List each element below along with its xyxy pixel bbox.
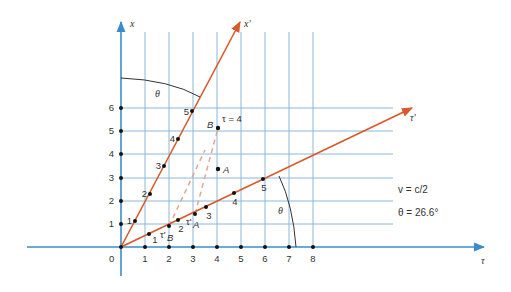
- svg-text:3: 3: [156, 160, 161, 171]
- x-axis-label: x: [129, 18, 135, 29]
- svg-text:6: 6: [262, 253, 267, 264]
- svg-text:2: 2: [166, 253, 171, 264]
- svg-text:2: 2: [178, 223, 183, 234]
- svg-text:4: 4: [232, 196, 237, 207]
- x-prime-axis: [121, 22, 240, 247]
- tau-prime-A-label: τ' A: [186, 216, 199, 230]
- svg-text:2: 2: [109, 195, 114, 206]
- svg-text:5: 5: [109, 125, 114, 136]
- svg-text:1: 1: [127, 215, 132, 226]
- svg-text:8: 8: [310, 253, 315, 264]
- event-A-label: A: [222, 164, 229, 175]
- angle-note: θ = 26.6°: [398, 207, 438, 218]
- svg-text:τ': τ': [160, 229, 166, 240]
- svg-text:A: A: [192, 219, 199, 230]
- svg-text:1: 1: [142, 253, 147, 264]
- tau-prime-A-dot: [193, 212, 197, 216]
- origin-label: 0: [109, 253, 114, 264]
- svg-text:5: 5: [184, 106, 189, 117]
- velocity-note: v = c/2: [398, 184, 428, 195]
- svg-text:4: 4: [214, 253, 219, 264]
- svg-text:4: 4: [109, 148, 114, 159]
- tau-prime-axis-label: τ': [410, 112, 417, 123]
- x-tick-labels: 1 2 3 4 5 6: [109, 102, 114, 229]
- grid-horizontal-lines: [121, 108, 393, 224]
- tau-prime-B-label: τ' B: [160, 229, 174, 243]
- svg-text:τ': τ': [186, 216, 192, 227]
- theta-label-upper: θ: [155, 88, 160, 99]
- tau-tick-labels: 1 2 3 4 5 6 7 8: [142, 253, 315, 264]
- spacetime-diagram: x x' τ' τ 0 1 2 3 4 5 6 7 8 1 2 3 4 5 6 …: [0, 0, 511, 292]
- theta-arc-upper: [121, 78, 200, 97]
- svg-text:3: 3: [190, 253, 195, 264]
- event-B-label: B: [207, 119, 214, 130]
- event-B-dot: [216, 126, 220, 130]
- svg-text:7: 7: [286, 253, 291, 264]
- svg-text:3: 3: [206, 210, 211, 221]
- event-B-annotation: τ = 4: [222, 113, 242, 124]
- svg-text:5: 5: [261, 182, 266, 193]
- svg-text:6: 6: [109, 102, 114, 113]
- x-prime-tick-labels: 1 2 3 4 5: [127, 106, 189, 226]
- svg-text:B: B: [167, 232, 174, 243]
- tau-axis-label: τ: [481, 255, 485, 266]
- x-prime-axis-label: x': [243, 18, 251, 29]
- theta-label-lower: θ: [278, 205, 283, 216]
- svg-text:5: 5: [238, 253, 243, 264]
- svg-text:1: 1: [152, 234, 157, 245]
- svg-text:3: 3: [109, 172, 114, 183]
- svg-text:4: 4: [170, 133, 175, 144]
- tau-prime-B-dot: [167, 224, 171, 228]
- svg-text:2: 2: [142, 188, 147, 199]
- svg-text:1: 1: [109, 218, 114, 229]
- event-A-dot: [216, 167, 220, 171]
